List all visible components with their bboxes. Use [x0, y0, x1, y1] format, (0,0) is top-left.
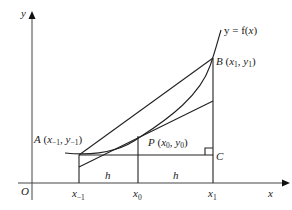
- diagram-canvas: y O x y = f(x) B (x1, y1) A (x−1, y−1) P…: [0, 0, 292, 210]
- tangent-line-p: [79, 101, 213, 167]
- curve-f: [65, 30, 221, 154]
- x-axis-arrow-icon: [282, 180, 290, 187]
- origin-label: O: [21, 185, 29, 197]
- point-p-label: P (x0, y0): [147, 136, 188, 150]
- point-c-label: C: [216, 150, 224, 162]
- y-axis-arrow-icon: [29, 11, 36, 19]
- interval-h-left: h: [105, 169, 111, 181]
- interval-h-right: h: [173, 169, 179, 181]
- tick-x-minus-1: x−1: [71, 187, 85, 202]
- curve-label: y = f(x): [224, 24, 257, 37]
- labels: y O x y = f(x) B (x1, y1) A (x−1, y−1) P…: [20, 7, 273, 202]
- y-axis-label: y: [20, 7, 26, 19]
- axes: [18, 18, 282, 200]
- tick-x1: x1: [207, 187, 217, 202]
- point-b-label: B (x1, y1): [216, 55, 256, 69]
- chord-ab: [79, 58, 213, 155]
- x-axis-label: x: [267, 187, 273, 199]
- point-a-label: A (x−1, y−1): [33, 133, 82, 147]
- right-angle-marker-icon: [205, 148, 213, 155]
- tick-x0: x0: [132, 187, 142, 202]
